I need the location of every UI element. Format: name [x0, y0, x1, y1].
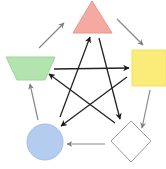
circle-node [27, 124, 63, 160]
triangle-node [73, 1, 112, 33]
diamond-node [111, 121, 151, 162]
arrow-circle-to-triangle [60, 37, 90, 117]
shape-cycle-diagram [0, 0, 166, 169]
nodes-layer [6, 1, 166, 162]
square-node [132, 50, 166, 86]
arrow-triangle-to-square [117, 19, 143, 45]
arrow-diamond-to-trapezoid [49, 74, 115, 123]
arrow-circle-to-trapezoid [30, 84, 38, 120]
arrow-triangle-to-diamond [99, 38, 120, 119]
arrow-square-to-diamond [142, 90, 150, 128]
trapezoid-node [6, 57, 55, 80]
star-edges-layer [49, 37, 129, 126]
arrow-square-to-circle [61, 77, 127, 126]
arrow-trapezoid-to-square [54, 68, 129, 69]
arrow-trapezoid-to-triangle [39, 23, 64, 48]
